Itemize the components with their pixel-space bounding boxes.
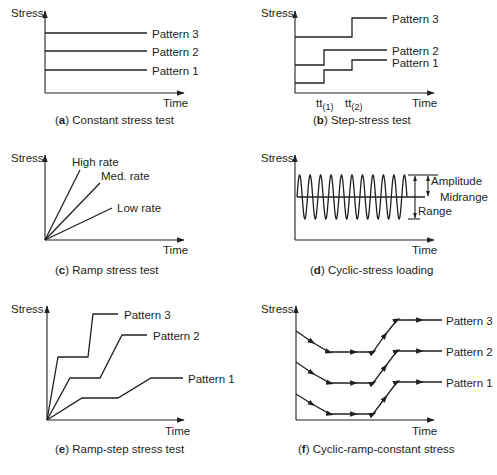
- pattern-2-line: [296, 351, 442, 383]
- med-rate-line: [45, 183, 100, 240]
- pattern-3-line: [47, 314, 118, 420]
- pattern-1-label: Pattern 1: [188, 373, 235, 385]
- pattern-1-label: Pattern 1: [392, 57, 439, 69]
- y-axis-label: Stress: [261, 7, 294, 19]
- med-rate-label: Med. rate: [101, 170, 150, 182]
- pattern-1-line: [296, 382, 442, 414]
- midrange-label: Midrange: [440, 191, 488, 203]
- panel-d-cyclic-stress: Stress Time Amplitude Midrange Range (d)…: [261, 152, 488, 276]
- y-axis-label: Stress: [261, 152, 294, 164]
- panel-letter: f: [302, 443, 306, 455]
- low-rate-label: Low rate: [117, 202, 161, 214]
- panel-b-step-stress: Stress Time Pattern 3 Pattern 2 Pattern …: [261, 7, 439, 126]
- y-axis-label: Stress: [11, 7, 44, 19]
- pattern-3-line: [295, 18, 387, 37]
- panel-caption: (d) Cyclic-stress loading: [310, 264, 433, 276]
- pattern-3-line: [296, 320, 442, 352]
- caption-text: Step-stress test: [328, 114, 412, 126]
- panel-caption: (f) Cyclic-ramp-constant stress: [298, 443, 455, 455]
- panel-caption: (a) Constant stress test: [55, 114, 175, 126]
- panel-letter: c: [59, 264, 66, 276]
- pattern-1-label: Pattern 1: [446, 377, 493, 389]
- amplitude-label: Amplitude: [431, 175, 482, 187]
- pattern-3-label: Pattern 3: [392, 13, 439, 25]
- panel-caption: (e) Ramp-step stress test: [55, 443, 185, 455]
- y-axis-label: Stress: [11, 303, 44, 315]
- panel-letter: d: [314, 264, 321, 276]
- pattern-1-line: [47, 378, 183, 420]
- y-axis-label: Stress: [11, 152, 44, 164]
- pattern-1-line: [295, 60, 387, 83]
- caption-text: Cyclic-ramp-constant stress: [310, 443, 455, 455]
- x-axis-label: Time: [163, 97, 188, 109]
- tick-tt2: tt(2): [345, 97, 362, 112]
- low-rate-line: [45, 208, 112, 240]
- tick-sub: (2): [351, 102, 362, 112]
- high-rate-line: [45, 170, 80, 240]
- caption-text: Cyclic-stress loading: [325, 264, 434, 276]
- x-axis-label: Time: [165, 425, 190, 437]
- panel-e-ramp-step-stress: Stress Time Pattern 3 Pattern 2 Pattern …: [11, 303, 235, 455]
- tick-sub: (1): [322, 102, 333, 112]
- panel-letter: a: [59, 114, 66, 126]
- pattern-2-line: [47, 335, 147, 420]
- panel-letter: b: [317, 114, 324, 126]
- x-axis-label: Time: [412, 97, 437, 109]
- pattern-3-label: Pattern 3: [446, 315, 493, 327]
- panel-letter: e: [59, 443, 65, 455]
- panel-c-ramp-stress: Stress Time High rate Med. rate Low rate…: [11, 152, 188, 276]
- caption-text: Ramp stress test: [69, 264, 159, 276]
- panel-caption: (c) Ramp stress test: [55, 264, 159, 276]
- pattern-2-label: Pattern 2: [392, 45, 439, 57]
- pattern-3-label: Pattern 3: [152, 28, 199, 40]
- caption-text: Constant stress test: [69, 114, 175, 126]
- pattern-2-label: Pattern 2: [153, 330, 200, 342]
- x-axis-label: Time: [412, 244, 437, 256]
- tick-tt1: tt(1): [316, 97, 333, 112]
- high-rate-label: High rate: [72, 156, 119, 168]
- pattern-2-line: [295, 50, 387, 65]
- x-axis-label: Time: [412, 425, 437, 437]
- pattern-1-label: Pattern 1: [152, 65, 199, 77]
- pattern-2-label: Pattern 2: [446, 346, 493, 358]
- panel-f-cyclic-ramp-constant: Stress Time Pattern 3 Pattern 2 Pattern …: [261, 303, 493, 455]
- pattern-3-label: Pattern 3: [124, 309, 171, 321]
- caption-text: Ramp-step stress test: [69, 443, 185, 455]
- y-axis-label: Stress: [261, 303, 294, 315]
- accelerated-test-figure: Stress Time Pattern 3 Pattern 2 Pattern …: [0, 0, 497, 475]
- panel-caption: (b) Step-stress test: [313, 114, 412, 126]
- panel-a-constant-stress: Stress Time Pattern 3 Pattern 2 Pattern …: [11, 7, 199, 126]
- x-axis-label: Time: [163, 244, 188, 256]
- range-label: Range: [418, 205, 452, 217]
- pattern-2-label: Pattern 2: [152, 46, 199, 58]
